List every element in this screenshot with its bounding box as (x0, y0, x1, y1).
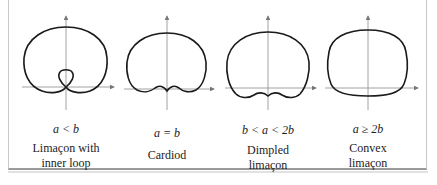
panel-2-axes (124, 16, 214, 110)
panel-1-name: Limaçon with inner loop (16, 141, 116, 171)
panel-1-name-line1: Limaçon with (16, 141, 116, 156)
panel-4-condition: a ≥ 2b (318, 122, 418, 137)
panel-3-name-line2: limaçon (218, 158, 318, 173)
panel-4-name: Convex limaçon (318, 141, 418, 171)
panel-3-condition: b < a < 2b (218, 123, 318, 138)
panel-4-name-line1: Convex (318, 141, 418, 156)
panel-2-curve (127, 33, 206, 92)
panel-4-name-line2: limaçon (318, 156, 418, 171)
panel-3-name-line1: Dimpled (218, 143, 318, 158)
panel-2-name: Cardiod (117, 148, 217, 163)
panel-3-name: Dimpled limaçon (218, 143, 318, 173)
panel-2-condition: a = b (117, 126, 217, 141)
panel-1-axes (22, 16, 114, 110)
panel-1-name-line2: inner loop (16, 156, 116, 171)
panel-1-curve (24, 27, 107, 93)
panel-4-curve (328, 30, 408, 96)
panel-2-name-line1: Cardiod (117, 148, 217, 163)
panel-1-condition: a < b (16, 122, 116, 137)
